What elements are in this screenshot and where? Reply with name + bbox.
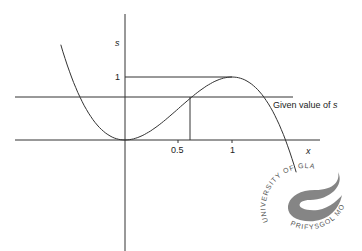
x-axis-label: x <box>306 146 311 156</box>
x-tick-half: 0.5 <box>171 145 184 155</box>
given-value-label: Given value of s <box>273 100 338 110</box>
university-logo: UNIVERSITY OF GLAMORGAN PRIFYSGOL MORGAN… <box>0 0 346 230</box>
y-tick-one: 1 <box>115 72 120 82</box>
plot-svg: UNIVERSITY OF GLAMORGAN PRIFYSGOL MORGAN… <box>0 0 362 251</box>
svg-text:PRIFYSGOL MORGANNWG: PRIFYSGOL MORGANNWG <box>0 0 346 230</box>
given-value-var: s <box>333 100 338 110</box>
given-value-text: Given value of <box>273 100 333 110</box>
svg-text:UNIVERSITY OF GLAMORGAN: UNIVERSITY OF GLAMORGAN <box>0 0 316 224</box>
diagram: UNIVERSITY OF GLAMORGAN PRIFYSGOL MORGAN… <box>0 0 362 251</box>
x-tick-one: 1 <box>230 145 235 155</box>
y-axis-label: s <box>115 38 120 48</box>
